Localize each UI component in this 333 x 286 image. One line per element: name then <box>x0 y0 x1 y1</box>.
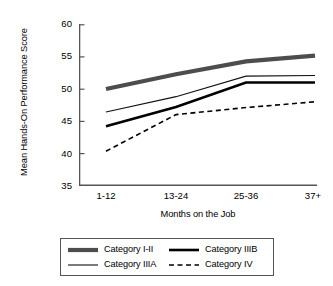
y-axis-tick-labels: 60 55 50 45 40 35 <box>50 24 72 186</box>
chart-legend: Category I-II Category IIIB Category III… <box>60 238 274 276</box>
legend-swatch-thick-black-line <box>168 245 200 255</box>
series-line-category-iv <box>106 102 315 151</box>
data-series-layer <box>106 56 315 152</box>
plot-area <box>79 24 317 186</box>
legend-item-category-iiib: Category IIIB <box>168 242 269 257</box>
y-tick-label: 50 <box>50 84 72 94</box>
legend-item-category-i-ii: Category I-II <box>67 242 168 257</box>
x-tick-label: 25-36 <box>216 190 276 202</box>
legend-label: Category IV <box>205 259 252 270</box>
x-tick-label: 13-24 <box>146 190 206 202</box>
y-tick-label: 40 <box>50 149 72 159</box>
legend-item-category-iv: Category IV <box>168 257 269 272</box>
y-tick-label: 35 <box>50 181 72 191</box>
y-tick-label: 60 <box>50 19 72 29</box>
plot-svg <box>79 24 317 186</box>
x-axis-tick-labels: 1-12 13-24 25-36 37+ <box>79 190 317 204</box>
x-tick-label: 37+ <box>283 190 333 202</box>
y-tick-label: 45 <box>50 116 72 126</box>
series-line-category-i-ii <box>106 56 315 89</box>
legend-swatch-dashed-black-line <box>168 260 200 270</box>
legend-swatch-thick-gray-line <box>67 245 99 255</box>
x-tick-label: 1-12 <box>76 190 136 202</box>
legend-swatch-thin-black-line <box>67 260 99 270</box>
legend-label: Category I-II <box>104 244 153 255</box>
x-axis-title: Months on the Job <box>79 209 317 219</box>
y-axis-title: Mean Hands-On Performance Score <box>14 12 34 192</box>
chart-figure: Mean Hands-On Performance Score 60 55 50… <box>0 0 333 286</box>
y-tick-label: 55 <box>50 51 72 61</box>
legend-label: Category IIIA <box>104 259 156 270</box>
legend-label: Category IIIB <box>205 244 257 255</box>
legend-item-category-iiia: Category IIIA <box>67 257 168 272</box>
